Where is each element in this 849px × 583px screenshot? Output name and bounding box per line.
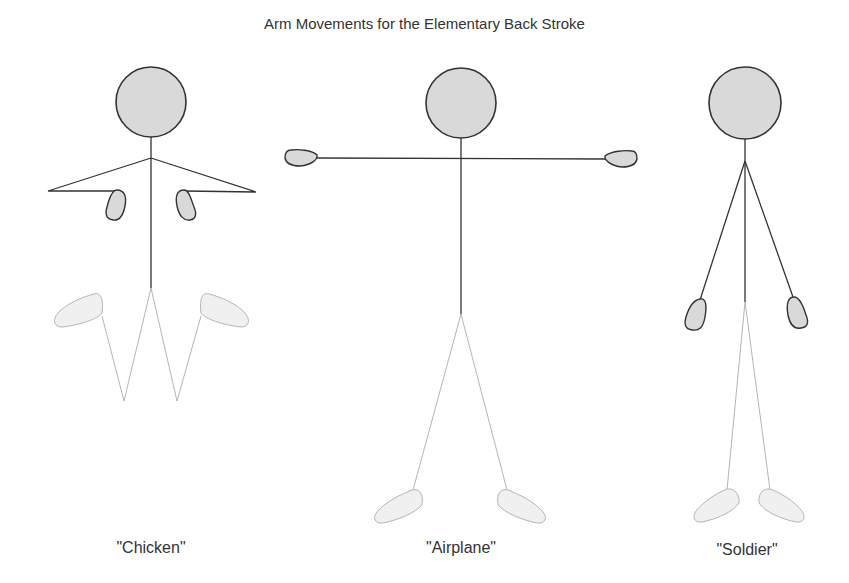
figure-soldier — [685, 67, 808, 522]
figure-airplane — [285, 68, 637, 523]
right-hand-icon — [605, 151, 637, 167]
caption-chicken: "Chicken" — [71, 539, 231, 557]
left-arm-line — [700, 161, 745, 300]
left-hand-icon — [106, 190, 126, 220]
stick-figures-diagram — [0, 0, 849, 583]
right-foot-icon — [498, 490, 546, 523]
left-hand-icon — [285, 150, 317, 166]
caption-soldier: "Soldier" — [667, 541, 827, 559]
legs-line — [727, 302, 770, 490]
right-arm-line — [745, 161, 793, 297]
right-arm-line — [151, 158, 256, 192]
head-icon — [116, 67, 186, 137]
head-icon — [426, 68, 496, 138]
caption-airplane: "Airplane" — [381, 539, 541, 557]
head-icon — [709, 67, 781, 139]
left-arm-line — [48, 158, 151, 191]
right-foot-icon — [200, 294, 248, 327]
right-foot-icon — [759, 489, 804, 522]
right-hand-icon — [176, 190, 195, 220]
right-hand-icon — [787, 297, 807, 328]
legs-line — [413, 314, 507, 490]
figure-chicken — [48, 67, 256, 401]
left-foot-icon — [55, 294, 103, 327]
legs-line — [102, 288, 201, 401]
left-foot-icon — [694, 489, 739, 522]
left-hand-icon — [685, 299, 706, 330]
left-foot-icon — [375, 490, 423, 523]
arms-line — [317, 158, 605, 159]
